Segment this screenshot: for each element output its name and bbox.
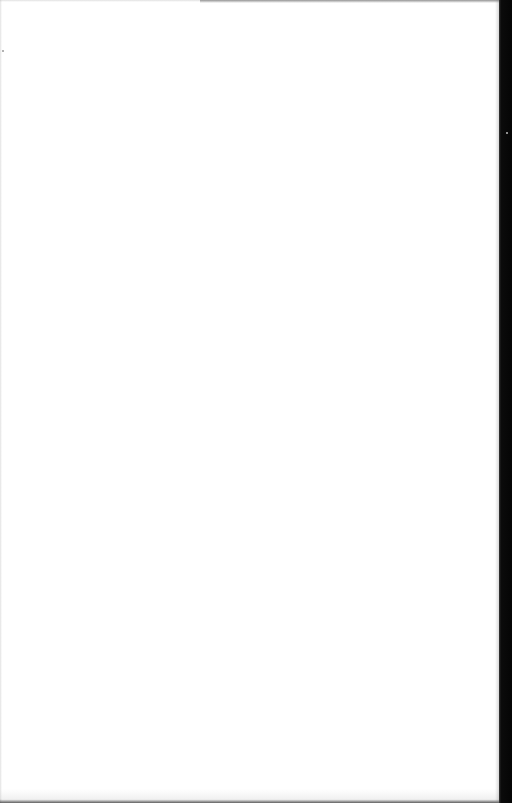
blank-page (0, 0, 499, 803)
scan-shadow-top-left (0, 0, 200, 2)
scan-speck (506, 132, 508, 134)
scan-speck (2, 50, 4, 52)
scan-shadow-bottom (0, 799, 500, 803)
scan-edge-left (0, 0, 2, 803)
scanned-document (0, 0, 512, 803)
scan-shadow-top (200, 0, 500, 3)
scan-haze-bottom (0, 789, 500, 799)
scan-edge-right (499, 0, 512, 803)
